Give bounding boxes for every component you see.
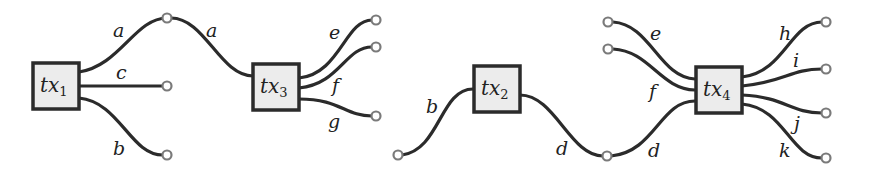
label-tx4-i: i xyxy=(793,49,799,71)
transaction-graph: tx1 tx3 tx2 tx4 a c b a e f g b d d e f … xyxy=(0,0,870,176)
label-tx1-c: c xyxy=(116,61,127,83)
port-tx4-e xyxy=(604,18,613,27)
label-tx3-e: e xyxy=(329,21,340,43)
label-tx4-e: e xyxy=(650,22,661,44)
port-c xyxy=(163,82,172,91)
label-tx3-a: a xyxy=(206,19,217,41)
tx1-node: tx1 xyxy=(33,63,79,109)
port-tx1-b xyxy=(163,151,172,160)
wire-tx4-j xyxy=(742,95,822,113)
label-tx4-h: h xyxy=(779,22,791,44)
port-tx4-k xyxy=(822,154,831,163)
tx4-node: tx4 xyxy=(696,67,742,113)
wire-tx4-i xyxy=(742,69,822,86)
port-tx3-g xyxy=(372,112,381,121)
label-tx3-g: g xyxy=(328,110,340,132)
label-tx1-a: a xyxy=(113,19,124,41)
port-tx4-f xyxy=(604,45,613,54)
tx3-node: tx3 xyxy=(253,64,299,110)
label-tx4-f: f xyxy=(647,80,659,102)
label-tx3-f: f xyxy=(330,74,342,96)
label-tx4-j: j xyxy=(790,112,800,134)
port-tx4-i xyxy=(822,65,831,74)
port-d xyxy=(603,152,612,161)
label-tx2-d: d xyxy=(556,137,568,159)
label-tx2-b: b xyxy=(426,95,438,117)
port-tx3-e xyxy=(372,16,381,25)
port-tx2-b xyxy=(394,151,403,160)
port-tx4-j xyxy=(822,109,831,118)
label-tx1-b: b xyxy=(113,137,125,159)
port-a xyxy=(163,14,172,23)
tx2-node: tx2 xyxy=(474,66,520,112)
port-tx3-f xyxy=(372,43,381,52)
label-tx4-d: d xyxy=(648,139,660,161)
label-tx4-k: k xyxy=(779,139,791,161)
port-tx4-h xyxy=(822,18,831,27)
